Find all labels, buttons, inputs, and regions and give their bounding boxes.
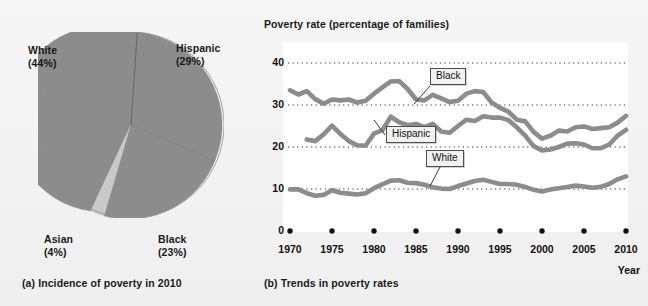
leader-white: [430, 167, 440, 186]
x-axis-title: Year: [618, 264, 640, 276]
x-tick-label-2010: 2010: [606, 243, 646, 255]
caption-panel-a: (a) Incidence of poverty in 2010: [22, 277, 182, 289]
x-tick-label-1995: 1995: [480, 243, 520, 255]
pie-label-black-pct: (23%): [158, 246, 187, 259]
x-tick-label-1980: 1980: [354, 243, 394, 255]
x-tick-dot-2000: [539, 228, 544, 233]
series-line-black: [290, 81, 626, 139]
pie-label-white: White (44%): [28, 44, 57, 70]
pie-label-black: Black (23%): [158, 233, 187, 259]
x-tick-label-2005: 2005: [564, 243, 604, 255]
y-tick-0: 0: [262, 224, 284, 236]
y-tick-30: 30: [262, 98, 284, 110]
y-tick-20: 20: [262, 140, 284, 152]
x-tick-dot-1990: [455, 228, 460, 233]
x-tick-label-1990: 1990: [438, 243, 478, 255]
y-tick-10: 10: [262, 182, 284, 194]
pie-label-hispanic: Hispanic (29%): [176, 42, 221, 68]
figure-root: White (44%) Hispanic (29%) Asian (4%) Bl…: [0, 0, 648, 306]
x-tick-dot-1975: [329, 228, 334, 233]
pie-label-asian-pct: (4%): [44, 246, 73, 259]
series-callout-black: Black: [430, 68, 466, 85]
series-callout-hispanic: Hispanic: [386, 126, 436, 143]
x-tick-label-2000: 2000: [522, 243, 562, 255]
pie-label-white-name: White: [28, 44, 57, 56]
pie-label-asian: Asian (4%): [44, 233, 73, 259]
x-tick-label-1970: 1970: [270, 243, 310, 255]
series-line-white: [290, 176, 626, 195]
x-tick-label-1975: 1975: [312, 243, 352, 255]
pie-label-white-pct: (44%): [28, 57, 57, 70]
series-callout-white: White: [426, 150, 464, 167]
pie-label-hispanic-name: Hispanic: [176, 42, 221, 54]
panel-a-pie-chart: White (44%) Hispanic (29%) Asian (4%) Bl…: [0, 0, 262, 306]
pie-label-black-name: Black: [158, 233, 187, 245]
x-tick-dot-2010: [623, 228, 628, 233]
pie-label-asian-name: Asian: [44, 233, 73, 245]
panel-b-line-chart: Poverty rate (percentage of families): [262, 0, 648, 306]
x-tick-label-1985: 1985: [396, 243, 436, 255]
data-series-group: [290, 81, 626, 196]
x-tick-dot-1985: [413, 228, 418, 233]
series-line-hispanic: [307, 116, 626, 150]
pie-label-hispanic-pct: (29%): [176, 55, 221, 68]
x-tick-dot-1995: [497, 228, 502, 233]
caption-panel-b: (b) Trends in poverty rates: [264, 277, 399, 289]
y-tick-40: 40: [262, 56, 284, 68]
x-tick-dots: [287, 228, 628, 233]
x-tick-dot-1980: [371, 228, 376, 233]
x-tick-dot-1970: [287, 228, 292, 233]
x-tick-dot-2005: [581, 228, 586, 233]
